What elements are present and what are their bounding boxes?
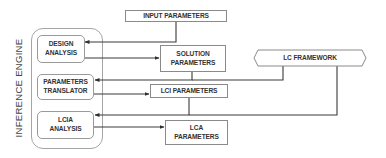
parameters-translator-label: PARAMETERS TRANSLATOR bbox=[43, 78, 88, 96]
lci-parameters-box: LCI PARAMETERS bbox=[150, 84, 228, 98]
input-parameters-box: INPUT PARAMETERS bbox=[125, 10, 227, 22]
edge-lci-to-lcia bbox=[95, 98, 189, 115]
edge-input-to-design bbox=[85, 22, 176, 42]
design-analysis-label: DESIGN ANALYSIS bbox=[45, 40, 77, 58]
lca-parameters-box: LCA PARAMETERS bbox=[165, 120, 228, 145]
edge-solution-to-translator bbox=[95, 72, 192, 80]
design-analysis-box: DESIGN ANALYSIS bbox=[37, 35, 85, 63]
parameters-translator-box: PARAMETERS TRANSLATOR bbox=[37, 74, 94, 100]
diagram-canvas: INFERENCE ENGINE bbox=[0, 0, 386, 158]
lca-parameters-label: LCA PARAMETERS bbox=[174, 124, 219, 142]
lcia-analysis-box: LCIA ANALYSIS bbox=[37, 111, 94, 139]
solution-parameters-label: SOLUTION PARAMETERS bbox=[171, 50, 216, 68]
input-parameters-label: INPUT PARAMETERS bbox=[143, 12, 209, 21]
lcia-analysis-label: LCIA ANALYSIS bbox=[50, 116, 82, 134]
lci-parameters-label: LCI PARAMETERS bbox=[161, 87, 218, 96]
lc-framework-box: LC FRAMEWORK bbox=[258, 51, 362, 65]
lc-framework-label: LC FRAMEWORK bbox=[283, 54, 337, 63]
solution-parameters-box: SOLUTION PARAMETERS bbox=[160, 45, 226, 72]
